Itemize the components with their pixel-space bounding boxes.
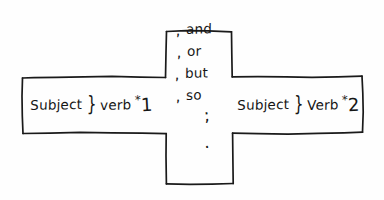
cross-edge-lower-right-horizontal xyxy=(233,132,363,134)
connector-item: , and xyxy=(175,20,236,42)
cross-edge-lower-left-horizontal xyxy=(23,132,166,133)
left-clause: Subject } verb * 1 xyxy=(30,93,150,114)
right-subject-label: Subject xyxy=(237,96,289,113)
connector-label-but: but xyxy=(185,64,208,81)
cross-edge-upper-left-horizontal xyxy=(23,76,166,78)
connector-item: , but xyxy=(174,64,236,86)
connector-label-so: so xyxy=(186,87,202,103)
connector-label-or: or xyxy=(187,43,201,59)
right-verb-label: Verb xyxy=(307,96,339,113)
right-clause-number: 2 xyxy=(348,94,361,116)
period-mark: . xyxy=(203,135,210,151)
cross-edge-right-vertical xyxy=(362,76,363,132)
cross-edge-bottom-horizontal xyxy=(166,184,233,185)
cross-edge-left-vertical xyxy=(22,78,23,134)
diagram-canvas: Subject } verb * 1 Subject } Verb * 2 , … xyxy=(0,0,384,200)
connector-item: , or xyxy=(176,42,236,64)
connector-label-and: and xyxy=(186,20,212,37)
cross-edge-top-left-vertical xyxy=(166,32,167,78)
left-subject-label: Subject xyxy=(30,96,82,113)
right-clause: Subject } Verb * 2 xyxy=(237,93,357,114)
punctuation-item: ; xyxy=(174,108,236,135)
semicolon-mark: ; xyxy=(203,108,211,124)
cross-edge-upper-right-horizontal xyxy=(232,76,362,77)
left-clause-number: 1 xyxy=(140,94,153,116)
connector-list: , and , or , but , so ; . xyxy=(174,20,236,162)
left-verb-label: verb xyxy=(100,96,132,113)
punctuation-item: . xyxy=(174,135,236,162)
